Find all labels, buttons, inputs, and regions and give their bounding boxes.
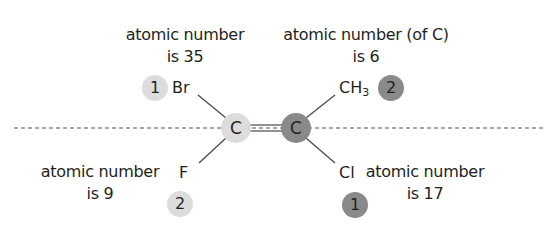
label-top-left: atomic number is 35 bbox=[126, 24, 244, 68]
label-top-left-line2: is 35 bbox=[126, 46, 244, 68]
bond-br-c bbox=[198, 95, 226, 118]
label-top-right-line1: atomic number (of C) bbox=[283, 24, 448, 46]
atom-f: F bbox=[179, 163, 188, 183]
priority-badge-br: 1 bbox=[142, 75, 168, 101]
label-bottom-left-line2: is 9 bbox=[41, 183, 159, 205]
label-bottom-left: atomic number is 9 bbox=[41, 161, 159, 205]
atom-ch3-subscript: 3 bbox=[362, 86, 369, 99]
bond-diagram bbox=[0, 0, 552, 244]
bond-f-c bbox=[199, 138, 226, 163]
label-bottom-right: atomic number is 17 bbox=[366, 161, 484, 205]
label-bottom-right-line2: is 17 bbox=[366, 183, 484, 205]
priority-badge-cl: 1 bbox=[342, 192, 368, 218]
carbon-left: C bbox=[221, 113, 251, 143]
label-top-right: atomic number (of C) is 6 bbox=[283, 24, 448, 68]
atom-cl: Cl bbox=[339, 163, 355, 183]
priority-badge-f: 2 bbox=[167, 191, 193, 217]
bond-cl-c bbox=[306, 138, 335, 163]
atom-br: Br bbox=[172, 78, 190, 98]
label-top-left-line1: atomic number bbox=[126, 24, 244, 46]
priority-badge-ch3: 2 bbox=[378, 75, 404, 101]
atom-ch3-symbol: CH bbox=[339, 78, 362, 97]
atom-ch3: CH3 bbox=[339, 78, 369, 98]
carbon-right: C bbox=[281, 113, 311, 143]
label-bottom-left-line1: atomic number bbox=[41, 161, 159, 183]
label-top-right-line2: is 6 bbox=[283, 46, 448, 68]
bond-ch3-c bbox=[306, 95, 335, 118]
label-bottom-right-line1: atomic number bbox=[366, 161, 484, 183]
